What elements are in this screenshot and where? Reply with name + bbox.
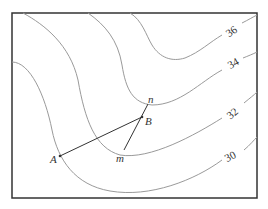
contour-36 <box>130 13 222 59</box>
point-label-B: B <box>145 115 152 127</box>
contour-30 <box>12 62 222 193</box>
point-label-m: m <box>116 152 124 164</box>
segment-m-n <box>124 104 148 150</box>
contour-34-tail <box>243 52 257 58</box>
contour-diagram: 30 32 34 36 A B m n <box>0 0 268 209</box>
contour-34 <box>88 13 222 105</box>
contour-label-36: 36 <box>223 23 239 39</box>
contour-30-tail <box>244 137 257 150</box>
point-label-n: n <box>148 93 154 105</box>
point-A-marker <box>59 155 62 158</box>
map-frame <box>12 13 257 198</box>
contour-32-tail <box>244 92 257 103</box>
contour-label-32: 32 <box>224 105 240 121</box>
contour-label-34: 34 <box>225 55 241 71</box>
segment-A-B <box>60 117 142 156</box>
point-B-marker <box>141 116 144 119</box>
contour-36-tail <box>242 15 257 23</box>
point-label-A: A <box>49 153 57 165</box>
contour-label-30: 30 <box>222 148 238 164</box>
